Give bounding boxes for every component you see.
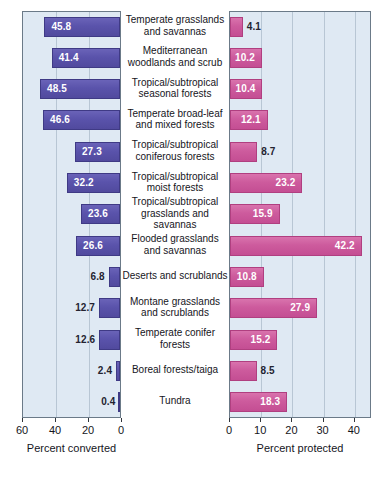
category-label-line: Tundra xyxy=(159,395,190,407)
axis-tick xyxy=(88,418,89,422)
bar-value-label-protected: 27.9 xyxy=(290,303,310,313)
bar-value-label-protected: 8.5 xyxy=(261,366,275,376)
bar-value-label-converted: 23.6 xyxy=(88,209,108,219)
axis-tick-label: 0 xyxy=(214,424,244,436)
category-label-line: Tropical/subtropical xyxy=(132,139,218,151)
left-bar-row: 41.4 xyxy=(23,43,120,72)
right-bar-row: 12.1 xyxy=(230,106,370,135)
right-bar-row: 27.9 xyxy=(230,294,370,323)
bar-value-label-converted: 45.8 xyxy=(51,22,71,32)
left-bar-row: 12.6 xyxy=(23,325,120,354)
right-bar-row: 10.4 xyxy=(230,75,370,104)
axis-tick xyxy=(323,418,324,422)
right-bar-row: 18.3 xyxy=(230,388,370,417)
category-label-line: Temperate conifer xyxy=(135,327,215,339)
left-bar-row: 2.4 xyxy=(23,356,120,385)
category-label-line: Tropical/subtropical xyxy=(132,171,218,183)
category-label-line: Tropical/subtropical xyxy=(132,77,218,89)
left-bar-row: 45.8 xyxy=(23,12,120,41)
category-label-line: Mediterranean xyxy=(128,45,223,57)
category-label-line: grasslands and savannas xyxy=(119,208,231,231)
bar-value-label-converted: 46.6 xyxy=(50,115,70,125)
category-label-line: forests xyxy=(135,339,215,351)
left-bar-row: 46.6 xyxy=(23,106,120,135)
category-label: Temperate coniferforests xyxy=(119,324,231,353)
right-bar-row: 15.9 xyxy=(230,200,370,229)
axis-tick xyxy=(229,418,230,422)
bar-value-label-protected: 23.2 xyxy=(276,178,296,188)
category-label: Temperate broad-leafand mixed forests xyxy=(119,105,231,134)
left-bar-row: 27.3 xyxy=(23,137,120,166)
left-bar-row: 26.6 xyxy=(23,231,120,260)
category-label-line: Temperate grasslands xyxy=(126,14,224,26)
category-label-line: Deserts and scrublands xyxy=(122,270,227,282)
left-bar-row: 6.8 xyxy=(23,262,120,291)
category-label: Montane grasslandsand scrublands xyxy=(119,293,231,322)
right-bar-row: 8.5 xyxy=(230,356,370,385)
category-label-line: and savannas xyxy=(131,245,218,257)
category-label: Tundra xyxy=(119,387,231,416)
axis-tick xyxy=(22,418,23,422)
bar-value-label-converted: 26.6 xyxy=(83,241,103,251)
right-bar-row: 10.8 xyxy=(230,262,370,291)
category-label-line: woodlands and scrub xyxy=(128,57,223,69)
right-bar-row: 4.1 xyxy=(230,12,370,41)
bar-value-label-protected: 15.9 xyxy=(253,209,273,219)
right-bar-row: 42.2 xyxy=(230,231,370,260)
left-bar-row: 32.2 xyxy=(23,169,120,198)
category-label-line: and mixed forests xyxy=(127,119,222,131)
axis-tick-label: 30 xyxy=(308,424,338,436)
bar-value-label-converted: 12.7 xyxy=(75,303,95,313)
right-axis-title: Percent protected xyxy=(214,442,377,455)
axis-tick-label: 20 xyxy=(276,424,306,436)
category-label-line: Flooded grasslands xyxy=(131,233,218,245)
bar-percent-protected[interactable] xyxy=(230,142,257,162)
category-label-line: Montane grasslands xyxy=(130,296,220,308)
category-label: Deserts and scrublands xyxy=(119,261,231,290)
axis-tick-label: 0 xyxy=(106,424,136,436)
category-label: Tropical/subtropicalconiferous forests xyxy=(119,136,231,165)
axis-tick-label: 10 xyxy=(245,424,275,436)
category-label: Boreal forests/taiga xyxy=(119,355,231,384)
left-bar-row: 48.5 xyxy=(23,75,120,104)
bar-value-label-converted: 6.8 xyxy=(91,272,105,282)
paired-bar-chart-figure: 45.841.448.546.627.332.223.626.66.812.71… xyxy=(0,0,377,477)
category-label-line: Boreal forests/taiga xyxy=(132,364,218,376)
axis-tick-label: 40 xyxy=(40,424,70,436)
bar-percent-protected[interactable] xyxy=(230,17,243,37)
axis-tick xyxy=(121,418,122,422)
bar-value-label-protected: 10.8 xyxy=(237,272,257,282)
category-label: Tropical/subtropicalseasonal forests xyxy=(119,74,231,103)
left-plot-percent-converted: 45.841.448.546.627.332.223.626.66.812.71… xyxy=(22,11,121,418)
category-label-line: seasonal forests xyxy=(132,88,218,100)
bar-value-label-protected: 12.1 xyxy=(241,115,261,125)
axis-tick xyxy=(55,418,56,422)
bar-value-label-protected: 8.7 xyxy=(261,147,275,157)
bar-percent-protected[interactable] xyxy=(230,361,257,381)
bar-value-label-protected: 10.2 xyxy=(235,53,255,63)
right-bar-row: 8.7 xyxy=(230,137,370,166)
category-label: Tropical/subtropicalgrasslands and savan… xyxy=(119,199,231,228)
category-label: Tropical/subtropicalmoist forests xyxy=(119,168,231,197)
bar-value-label-protected: 18.3 xyxy=(260,397,280,407)
bar-value-label-protected: 42.2 xyxy=(335,241,355,251)
axis-tick xyxy=(291,418,292,422)
category-label-line: Tropical/subtropical xyxy=(119,196,231,208)
category-label: Temperate grasslandsand savannas xyxy=(119,11,231,40)
left-bar-row: 0.4 xyxy=(23,388,120,417)
category-label: Flooded grasslandsand savannas xyxy=(119,230,231,259)
bar-value-label-converted: 12.6 xyxy=(75,335,95,345)
category-label: Mediterraneanwoodlands and scrub xyxy=(119,42,231,71)
axis-tick-label: 40 xyxy=(339,424,369,436)
left-axis-title: Percent converted xyxy=(7,442,136,455)
right-bar-row: 10.2 xyxy=(230,43,370,72)
bar-percent-converted[interactable] xyxy=(99,330,120,350)
bar-value-label-converted: 27.3 xyxy=(82,147,102,157)
category-label-line: coniferous forests xyxy=(132,151,218,163)
bar-percent-converted[interactable] xyxy=(99,298,120,318)
bar-value-label-converted: 41.4 xyxy=(59,53,79,63)
axis-tick-label: 60 xyxy=(7,424,37,436)
bar-value-label-protected: 10.4 xyxy=(236,84,256,94)
axis-tick-label: 20 xyxy=(73,424,103,436)
category-label-line: Temperate broad-leaf xyxy=(127,108,222,120)
